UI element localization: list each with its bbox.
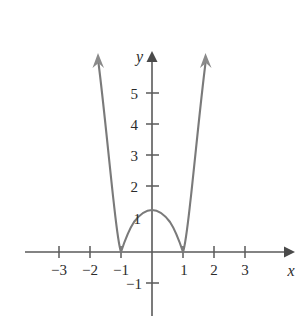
y-tick-label-3: 3 [131, 148, 139, 164]
x-tick-label-neg1: −1 [113, 262, 129, 278]
y-tick-label-4: 4 [131, 117, 139, 133]
x-axis-label: x [286, 262, 294, 279]
y-tick-label-5: 5 [131, 86, 139, 102]
y-axis-arrow-icon [147, 51, 158, 62]
x-tick-label-3: 3 [241, 262, 249, 278]
coordinate-plane-svg: 5 4 3 2 1 −1 −3 −2 −1 1 2 3 y x [0, 0, 308, 331]
y-axis-label: y [134, 48, 144, 66]
graph-figure: 5 4 3 2 1 −1 −3 −2 −1 1 2 3 y x [0, 0, 308, 331]
y-tick-label-1: 1 [134, 211, 142, 227]
x-tick-label-neg2: −2 [82, 262, 98, 278]
y-tick-label-neg1: −1 [126, 276, 142, 292]
x-tick-label-neg3: −3 [51, 262, 67, 278]
x-tick-label-2: 2 [210, 262, 218, 278]
y-tick-label-2: 2 [131, 179, 139, 195]
x-tick-label-1: 1 [180, 262, 188, 278]
x-axis-arrow-icon [284, 247, 295, 258]
